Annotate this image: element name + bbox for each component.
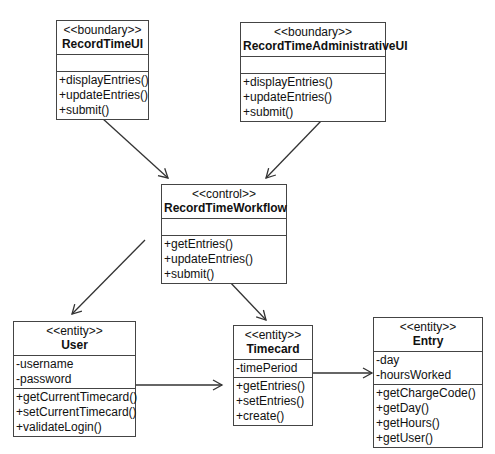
operations-compartment: +displayEntries() +updateEntries() +subm… bbox=[57, 72, 148, 119]
operations-compartment: +getEntries() +setEntries() +create() bbox=[234, 378, 312, 425]
class-header: <<control>> RecordTimeWorkflow bbox=[162, 185, 286, 219]
operations-compartment: +getEntries() +updateEntries() +submit() bbox=[162, 236, 286, 283]
operation: +setCurrentTimecard() bbox=[16, 405, 133, 420]
class-record-time-administrative-ui[interactable]: <<boundary>> RecordTimeAdministrativeUI … bbox=[240, 22, 386, 122]
arrow-ui-to-workflow bbox=[102, 118, 168, 178]
stereotype: <<entity>> bbox=[236, 328, 310, 342]
class-header: <<boundary>> RecordTimeAdministrativeUI bbox=[241, 23, 385, 57]
class-name: RecordTimeWorkflow bbox=[164, 201, 284, 216]
class-record-time-ui[interactable]: <<boundary>> RecordTimeUI +displayEntrie… bbox=[56, 20, 149, 120]
operation: +updateEntries() bbox=[164, 252, 284, 267]
stereotype: <<entity>> bbox=[376, 320, 480, 334]
operation: +submit() bbox=[164, 267, 284, 282]
operation: +getUser() bbox=[376, 431, 480, 446]
attributes-compartment bbox=[162, 219, 286, 236]
attribute: -password bbox=[16, 372, 133, 387]
operation: +getDay() bbox=[376, 401, 480, 416]
operations-compartment: +displayEntries() +updateEntries() +subm… bbox=[241, 74, 385, 121]
attribute: -hoursWorked bbox=[376, 368, 480, 383]
operation: +displayEntries() bbox=[59, 73, 146, 88]
stereotype: <<entity>> bbox=[16, 324, 133, 338]
arrow-workflow-to-timecard bbox=[228, 280, 266, 320]
class-timecard[interactable]: <<entity>> Timecard -timePeriod +getEntr… bbox=[233, 325, 313, 426]
operation: +getHours() bbox=[376, 416, 480, 431]
operation: +submit() bbox=[59, 103, 146, 118]
operation: +setEntries() bbox=[236, 394, 310, 409]
operation: +validateLogin() bbox=[16, 420, 133, 435]
class-header: <<boundary>> RecordTimeUI bbox=[57, 21, 148, 55]
attributes-compartment: -day -hoursWorked bbox=[374, 352, 482, 385]
class-name: Entry bbox=[376, 334, 480, 349]
operation: +updateEntries() bbox=[243, 90, 383, 105]
stereotype: <<boundary>> bbox=[243, 25, 383, 39]
class-name: Timecard bbox=[236, 342, 310, 357]
operation: +getEntries() bbox=[236, 379, 310, 394]
stereotype: <<control>> bbox=[164, 187, 284, 201]
operation: +submit() bbox=[243, 105, 383, 120]
class-record-time-workflow[interactable]: <<control>> RecordTimeWorkflow +getEntri… bbox=[161, 184, 287, 284]
class-entry[interactable]: <<entity>> Entry -day -hoursWorked +getC… bbox=[373, 317, 483, 448]
class-header: <<entity>> Timecard bbox=[234, 326, 312, 360]
class-name: RecordTimeUI bbox=[59, 37, 146, 52]
attributes-compartment: -timePeriod bbox=[234, 360, 312, 378]
arrow-workflow-to-user bbox=[72, 240, 145, 314]
attributes-compartment bbox=[57, 55, 148, 72]
arrow-adminui-to-workflow bbox=[266, 120, 322, 178]
attributes-compartment: -username -password bbox=[14, 356, 135, 389]
attributes-compartment bbox=[241, 57, 385, 74]
class-name: RecordTimeAdministrativeUI bbox=[243, 39, 383, 54]
operation: +getEntries() bbox=[164, 237, 284, 252]
operation: +getCurrentTimecard() bbox=[16, 390, 133, 405]
operation: +create() bbox=[236, 409, 310, 424]
class-name: User bbox=[16, 338, 133, 353]
operation: +displayEntries() bbox=[243, 75, 383, 90]
operation: +updateEntries() bbox=[59, 88, 146, 103]
attribute: -username bbox=[16, 357, 133, 372]
class-user[interactable]: <<entity>> User -username -password +get… bbox=[13, 321, 136, 437]
stereotype: <<boundary>> bbox=[59, 23, 146, 37]
attribute: -day bbox=[376, 353, 480, 368]
attribute: -timePeriod bbox=[236, 361, 310, 376]
operation: +getChargeCode() bbox=[376, 386, 480, 401]
class-header: <<entity>> Entry bbox=[374, 318, 482, 352]
operations-compartment: +getCurrentTimecard() +setCurrentTimecar… bbox=[14, 389, 135, 436]
class-header: <<entity>> User bbox=[14, 322, 135, 356]
operations-compartment: +getChargeCode() +getDay() +getHours() +… bbox=[374, 385, 482, 447]
